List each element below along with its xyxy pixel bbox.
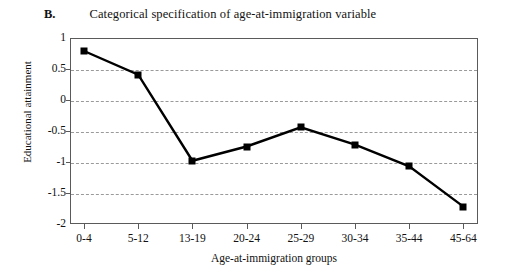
y-tick-label: -2 xyxy=(32,218,66,230)
data-point xyxy=(135,71,142,78)
plot-frame xyxy=(70,38,478,224)
gridline xyxy=(71,194,477,195)
y-tick-mark xyxy=(66,162,70,163)
data-point xyxy=(297,124,304,131)
y-tick-label: -0.5 xyxy=(32,125,66,137)
data-point xyxy=(460,203,467,210)
y-tick-mark xyxy=(66,131,70,132)
y-tick-mark xyxy=(66,100,70,101)
y-tick-label: 0.5 xyxy=(32,63,66,75)
data-point xyxy=(81,48,88,55)
y-tick-mark xyxy=(66,193,70,194)
x-tick-label: 45-64 xyxy=(436,232,490,245)
y-tick-mark xyxy=(66,69,70,70)
x-tick-mark xyxy=(247,224,248,229)
x-tick-mark xyxy=(463,224,464,229)
x-tick-mark xyxy=(84,224,85,229)
x-tick-label: 0-4 xyxy=(57,232,111,245)
data-point xyxy=(243,143,250,150)
line-chart: 10.50-0.5-1-1.5-2 Educational attainment… xyxy=(0,0,505,276)
gridline xyxy=(71,70,477,71)
x-tick-label: 13-19 xyxy=(165,232,219,245)
data-point xyxy=(352,141,359,148)
x-tick-label: 25-29 xyxy=(274,232,328,245)
x-tick-label: 30-34 xyxy=(328,232,382,245)
x-tick-mark xyxy=(355,224,356,229)
x-tick-mark xyxy=(138,224,139,229)
y-tick-label: 0 xyxy=(32,94,66,106)
x-tick-label: 5-12 xyxy=(111,232,165,245)
x-tick-label: 35-44 xyxy=(382,232,436,245)
x-tick-mark xyxy=(409,224,410,229)
gridline xyxy=(71,101,477,102)
y-tick-label: 1 xyxy=(32,32,66,44)
x-axis-title: Age-at-immigration groups xyxy=(70,252,478,264)
y-axis-title: Educational attainment xyxy=(21,37,33,187)
data-point xyxy=(406,163,413,170)
x-tick-mark xyxy=(301,224,302,229)
data-point xyxy=(189,157,196,164)
y-axis-tick-labels: 10.50-0.5-1-1.5-2 xyxy=(28,38,66,224)
x-tick-label: 20-24 xyxy=(220,232,274,245)
gridline xyxy=(71,163,477,164)
y-tick-label: -1.5 xyxy=(32,187,66,199)
x-tick-mark xyxy=(192,224,193,229)
y-tick-label: -1 xyxy=(32,156,66,168)
gridline xyxy=(71,132,477,133)
